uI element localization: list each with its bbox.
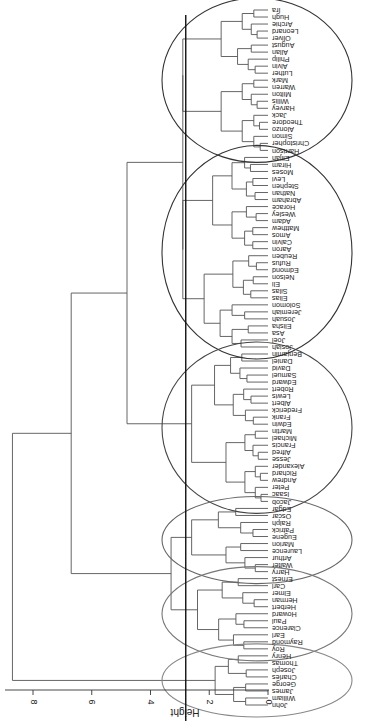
cluster-ellipse-4 [162,496,352,583]
axis-tick-label: 6 [87,699,97,704]
axis-tick-label: 8 [29,699,39,704]
dendrogram-chart: IraHughArchieLeonardOliverAugustAllanPhi… [0,0,365,721]
axis-tick-label: 4 [146,699,156,704]
dendrogram-svg: IraHughArchieLeonardOliverAugustAllanPhi… [0,0,365,721]
leaf-labels: IraHughArchieLeonardOliverAugustAllanPhi… [271,6,309,710]
dendrogram-branches [12,10,268,705]
axis-tick-label: 2 [205,699,215,704]
cluster-ellipse-2 [162,145,352,359]
axis-title: Height [170,707,199,718]
axis-tick-label: 0 [264,699,274,704]
